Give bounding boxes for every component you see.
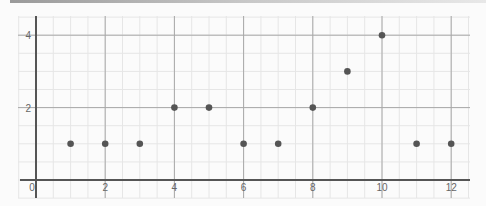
y-tick-label: 4 <box>25 30 31 41</box>
x-tick-label: 0 <box>29 182 35 193</box>
y-tick-label: 2 <box>25 103 31 114</box>
data-point <box>171 104 178 111</box>
x-tick-label: 4 <box>172 182 178 193</box>
data-point <box>275 141 282 148</box>
data-point <box>240 141 247 148</box>
x-tick-label: 10 <box>376 182 388 193</box>
data-point <box>102 141 109 148</box>
data-point <box>344 68 351 75</box>
x-tick-label: 6 <box>241 182 247 193</box>
data-point <box>206 104 213 111</box>
x-tick-label: 8 <box>310 182 316 193</box>
data-point <box>310 104 317 111</box>
data-point <box>67 141 74 148</box>
data-point <box>413 141 420 148</box>
x-tick-label: 2 <box>102 182 108 193</box>
x-tick-label: 12 <box>446 182 458 193</box>
scatter-plot: 02468101224 <box>0 0 486 206</box>
data-point <box>448 141 455 148</box>
data-point <box>137 141 144 148</box>
data-point <box>379 32 386 39</box>
